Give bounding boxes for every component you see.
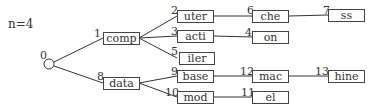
root-number: 0	[40, 50, 47, 61]
node-el: el	[252, 91, 289, 104]
node-che: che	[252, 10, 289, 23]
node-comp: comp	[103, 32, 140, 45]
node-hine: hine	[328, 70, 365, 83]
node-number: 1	[94, 28, 101, 39]
node-number: 13	[315, 66, 329, 77]
node-data: data	[103, 77, 140, 90]
node-mac: mac	[252, 70, 289, 83]
node-acti: acti	[177, 30, 214, 43]
node-uter: uter	[177, 10, 214, 23]
n-label: n=4	[8, 18, 33, 30]
node-base: base	[177, 70, 214, 83]
node-on: on	[252, 31, 289, 44]
node-mod: mod	[177, 91, 214, 104]
node-ss: ss	[328, 9, 365, 22]
node-number: 5	[171, 46, 178, 57]
node-number: 4	[245, 27, 252, 38]
node-iler: iler	[179, 52, 215, 65]
